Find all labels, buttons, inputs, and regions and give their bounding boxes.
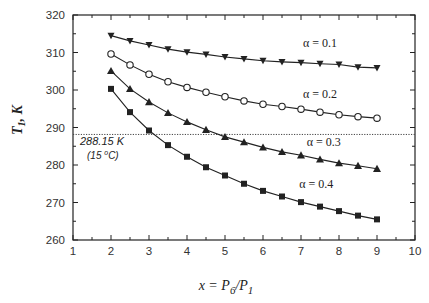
data-point-circle — [298, 106, 304, 112]
x-axis-title: x = P6/P1 — [198, 278, 254, 296]
x-tick-label: 6 — [260, 245, 266, 257]
data-point-square — [355, 213, 361, 219]
data-point-circle — [355, 113, 361, 119]
y-tick-label: 310 — [46, 47, 65, 59]
series-4 — [108, 86, 380, 223]
series-1 — [108, 33, 381, 72]
data-point-circle — [241, 98, 247, 104]
y-tick-label: 290 — [46, 122, 65, 134]
series-label: α = 0.3 — [307, 135, 341, 149]
y-tick-label: 280 — [46, 159, 65, 171]
chart: 12345678910260270280290300310320 α = 0.1… — [0, 0, 429, 303]
data-point-square — [374, 216, 380, 222]
data-point-square — [241, 181, 247, 187]
x-tick-label: 7 — [298, 245, 304, 257]
data-point-circle — [260, 101, 266, 107]
data-point-square — [184, 154, 190, 160]
data-point-square — [108, 86, 114, 92]
series-line — [111, 89, 377, 220]
data-point-square — [336, 208, 342, 214]
series-label: α = 0.1 — [303, 36, 337, 50]
data-point-circle — [374, 115, 380, 121]
data-point-square — [146, 128, 152, 134]
data-point-triangle-up — [145, 98, 153, 105]
series-label: α = 0.2 — [303, 87, 337, 101]
data-point-square — [222, 173, 228, 179]
y-axis-title: T1, K — [10, 103, 27, 135]
reference-line-label: 288.15 K — [79, 135, 125, 147]
x-tick-label: 9 — [374, 245, 380, 257]
series-3 — [107, 67, 381, 172]
data-point-triangle-up — [202, 126, 210, 133]
data-point-circle — [279, 103, 285, 109]
y-tick-label: 270 — [46, 197, 65, 209]
data-point-square — [127, 109, 133, 115]
reference-line-sublabel: (15 oC) — [87, 149, 119, 161]
data-point-square — [165, 142, 171, 148]
data-point-triangle-up — [164, 109, 172, 116]
data-point-circle — [146, 71, 152, 77]
x-tick-label: 3 — [146, 245, 152, 257]
data-point-triangle-up — [107, 67, 115, 74]
x-tick-label: 8 — [336, 245, 342, 257]
series-line — [111, 71, 377, 169]
x-tick-label: 10 — [409, 245, 422, 257]
axis-ticks — [73, 15, 415, 240]
data-point-circle — [317, 109, 323, 115]
data-point-circle — [222, 94, 228, 100]
data-point-circle — [184, 84, 190, 90]
series-label: α = 0.4 — [299, 177, 333, 191]
series-group — [107, 33, 381, 223]
plot-frame — [73, 15, 415, 240]
data-point-triangle-up — [183, 118, 191, 125]
data-point-circle — [127, 62, 133, 68]
x-tick-label: 5 — [222, 245, 228, 257]
data-point-circle — [108, 51, 114, 57]
y-tick-label: 320 — [46, 9, 65, 21]
data-point-circle — [336, 112, 342, 118]
x-tick-label: 4 — [184, 245, 191, 257]
data-point-square — [260, 188, 266, 194]
y-tick-label: 260 — [46, 234, 65, 246]
data-point-circle — [165, 79, 171, 85]
data-point-circle — [203, 89, 209, 95]
data-point-square — [279, 194, 285, 200]
plot-border — [73, 15, 415, 240]
tick-labels: 12345678910260270280290300310320 — [46, 9, 422, 257]
x-tick-label: 2 — [108, 245, 114, 257]
data-point-square — [203, 164, 209, 170]
x-tick-label: 1 — [70, 245, 76, 257]
data-point-square — [298, 199, 304, 205]
data-point-square — [317, 204, 323, 210]
y-tick-label: 300 — [46, 84, 65, 96]
